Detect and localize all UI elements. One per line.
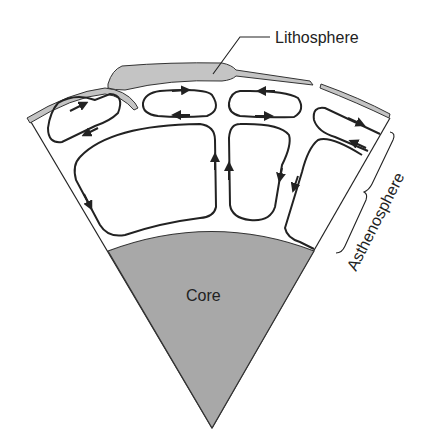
convection-cell-top-center-left — [143, 90, 216, 117]
convection-cell-top-right — [314, 108, 380, 151]
core-label: Core — [186, 287, 221, 304]
asthenosphere-label: Asthenosphere — [344, 170, 408, 274]
mantle-convection-diagram: Lithosphere Asthenosphere Core — [0, 0, 447, 447]
convection-cell-top-center-right — [229, 91, 301, 117]
core-region — [108, 232, 314, 429]
convection-cell-bottom-right — [285, 139, 362, 249]
convection-cells — [48, 90, 380, 249]
convection-cell-bottom-left — [75, 124, 216, 236]
lithosphere-label: Lithosphere — [275, 29, 359, 46]
